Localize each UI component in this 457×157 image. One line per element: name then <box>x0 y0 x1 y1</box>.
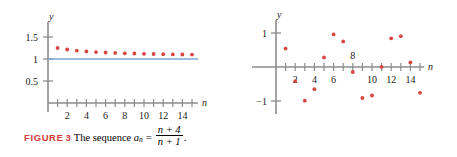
figure-3-caption-text: The sequence <box>74 132 131 143</box>
data-point <box>322 56 326 60</box>
data-point <box>341 40 345 44</box>
y-axis-label: y <box>48 11 54 22</box>
x-tick-label: 4 <box>312 74 317 85</box>
data-point <box>85 50 89 54</box>
data-point <box>142 52 146 56</box>
figure-3: y n 1.5 1 0.5 <box>0 0 228 157</box>
y-tick-label: 1 <box>262 28 267 39</box>
data-point <box>409 61 413 65</box>
figure-3-number: 3 <box>66 132 71 143</box>
figure-3-label: FIGURE <box>24 132 64 143</box>
figure-3-caption: FIGURE3The sequence an=n + 4n + 1. <box>24 124 224 147</box>
figure-pair: y n 1.5 1 0.5 <box>0 0 457 157</box>
x-tick-label: 6 <box>331 74 336 85</box>
fraction-denominator: n + 1 <box>156 135 183 147</box>
x-axis-label: n <box>428 61 433 72</box>
data-point <box>65 48 69 52</box>
x-tick-label: 10 <box>367 74 377 85</box>
x-tick-label: 12 <box>158 110 168 121</box>
data-point <box>161 52 165 56</box>
data-point <box>313 87 317 91</box>
data-point <box>133 52 137 56</box>
data-point <box>293 79 297 83</box>
x-tick-label-group: 2 4 6 8 10 12 14 <box>65 110 188 121</box>
y-tick-label: 1 <box>33 54 38 65</box>
figure-3-chart: y n 1.5 1 0.5 <box>0 0 228 124</box>
data-point <box>181 53 185 57</box>
data-point <box>332 33 336 37</box>
fraction-numerator: n + 4 <box>156 124 183 135</box>
data-point <box>380 65 384 69</box>
data-point <box>284 47 288 51</box>
figure-4-chart: y n 1 −1 <box>228 0 457 124</box>
x-axis-label: n <box>202 97 207 108</box>
data-point <box>152 52 156 56</box>
x-tick-label-8: 8 <box>350 50 355 61</box>
y-tick-label: 0.5 <box>26 76 39 87</box>
data-point <box>123 51 127 55</box>
fraction: n + 4n + 1 <box>156 124 183 147</box>
sequence-subscript: n <box>139 135 143 144</box>
data-point <box>94 50 98 54</box>
y-axis-label: y <box>276 9 282 20</box>
data-point <box>113 51 117 55</box>
x-tick-label: 2 <box>65 110 70 121</box>
data-point <box>56 46 60 50</box>
figure-3-data-points <box>56 46 194 56</box>
data-point <box>351 70 355 74</box>
x-tick-label: 10 <box>139 110 149 121</box>
data-point <box>399 34 403 38</box>
data-point <box>418 91 422 95</box>
data-point <box>104 51 108 55</box>
data-point <box>389 36 393 40</box>
data-point <box>361 96 365 100</box>
data-point <box>370 94 374 98</box>
x-tick-label: 14 <box>177 110 187 121</box>
y-tick-label: 1.5 <box>26 32 39 43</box>
data-point <box>303 99 307 103</box>
x-tick-label: 12 <box>386 74 396 85</box>
data-point <box>190 53 194 57</box>
x-tick-label: 8 <box>122 110 127 121</box>
data-point <box>75 49 79 53</box>
x-tick-label: 4 <box>84 110 89 121</box>
caption-period: . <box>184 132 187 143</box>
x-tick-label: 14 <box>405 74 415 85</box>
y-tick-label: −1 <box>256 96 267 107</box>
equals-sign: = <box>146 132 152 143</box>
figure-4: y n 1 −1 <box>228 0 457 157</box>
data-point <box>171 53 175 57</box>
x-tick-label: 6 <box>103 110 108 121</box>
